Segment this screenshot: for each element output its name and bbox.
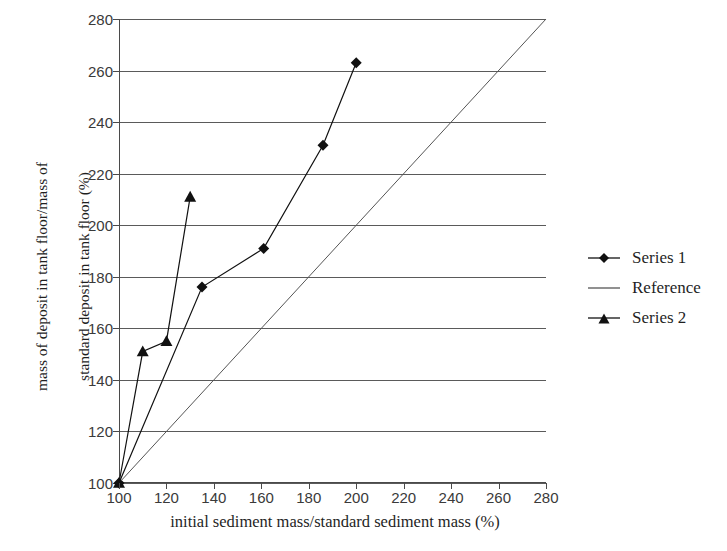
- data-point-marker: [160, 335, 172, 346]
- y-axis-tick-label: 160: [67, 320, 113, 337]
- x-axis-tick-mark: [499, 483, 500, 489]
- legend-item[interactable]: Series 1: [586, 243, 701, 273]
- y-axis-tick-label: 220: [67, 165, 113, 182]
- x-axis-tick-mark: [261, 483, 262, 489]
- y-axis-tick-label: 200: [67, 217, 113, 234]
- x-axis-tick-mark: [309, 483, 310, 489]
- x-axis-tick-mark: [451, 483, 452, 489]
- series-series-2: [113, 191, 196, 488]
- diamond-icon: [586, 248, 622, 268]
- x-axis-tick-mark: [166, 483, 167, 489]
- series-line: [119, 63, 356, 483]
- legend-item[interactable]: Reference: [586, 273, 701, 303]
- series-plot: [119, 19, 546, 483]
- legend-label: Series 2: [632, 308, 686, 328]
- series-line: [119, 19, 546, 483]
- x-axis-tick-mark: [214, 483, 215, 489]
- data-point-marker: [258, 243, 269, 254]
- y-axis-tick-label: 180: [67, 268, 113, 285]
- data-point-marker: [184, 191, 196, 202]
- y-axis-tick-label: 240: [67, 114, 113, 131]
- legend-label: Reference: [632, 278, 701, 298]
- x-axis-title: initial sediment mass/standard sediment …: [110, 512, 560, 532]
- line-icon: [586, 278, 622, 298]
- y-axis-tick-label: 280: [67, 11, 113, 28]
- legend: Series 1ReferenceSeries 2: [586, 243, 701, 333]
- y-axis-tick-label: 140: [67, 371, 113, 388]
- plot-area: [119, 19, 546, 483]
- legend-item[interactable]: Series 2: [586, 303, 701, 333]
- data-point-marker: [318, 140, 329, 151]
- x-axis-tick-label: 280: [516, 489, 576, 506]
- triangle-icon: [586, 308, 622, 328]
- x-axis-tick-mark: [546, 483, 547, 489]
- gridline: [119, 483, 546, 484]
- x-axis-tick-mark: [404, 483, 405, 489]
- x-axis-tick-mark: [356, 483, 357, 489]
- data-point-marker: [351, 57, 362, 68]
- y-axis-tick-label: 120: [67, 423, 113, 440]
- chart-container: mass of deposit in tank floor/mass of st…: [0, 0, 727, 551]
- y-axis-tick-label: 260: [67, 62, 113, 79]
- legend-label: Series 1: [632, 248, 686, 268]
- series-reference: [119, 19, 546, 483]
- series-series-1: [114, 57, 362, 488]
- data-point-marker: [137, 346, 149, 357]
- data-point-marker: [197, 282, 208, 293]
- y-axis-title-line-1: mass of deposit in tank floor/mass of: [31, 67, 52, 487]
- x-axis-tick-mark: [119, 483, 120, 489]
